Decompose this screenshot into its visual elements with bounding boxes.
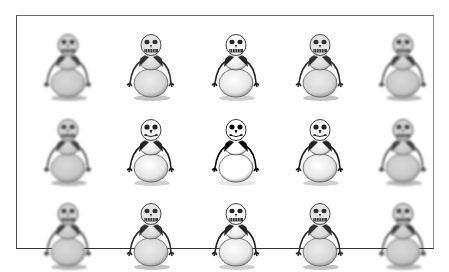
snowman-icon: [290, 27, 350, 103]
snowman-icon: [290, 112, 350, 188]
snowman-icon: [206, 196, 266, 272]
snowman-cell-r2-c0[interactable]: [38, 196, 98, 272]
snowman-cell-r2-c1[interactable]: [121, 196, 181, 272]
snowman-icon: [121, 196, 181, 272]
snowman-icon: [206, 112, 266, 188]
snowman-cell-r0-c4[interactable]: [373, 27, 433, 103]
snowman-icon: [38, 27, 98, 103]
snowman-icon: [373, 112, 433, 188]
snowman-icon: [290, 196, 350, 272]
snowman-icon: [38, 112, 98, 188]
snowman-cell-r1-c2[interactable]: [206, 112, 266, 188]
snowman-cell-r2-c4[interactable]: [373, 196, 433, 272]
snowman-icon: [121, 27, 181, 103]
snowman-cell-r0-c2[interactable]: [206, 27, 266, 103]
snowman-cell-r1-c0[interactable]: [38, 112, 98, 188]
snowman-cell-r2-c2[interactable]: [206, 196, 266, 272]
snowman-icon: [373, 196, 433, 272]
snowman-icon: [373, 27, 433, 103]
snowman-icon: [38, 196, 98, 272]
snowman-cell-r2-c3[interactable]: [290, 196, 350, 272]
snowman-cell-r1-c1[interactable]: [121, 112, 181, 188]
snowman-icon: [206, 27, 266, 103]
snowman-cell-r1-c3[interactable]: [290, 112, 350, 188]
snowman-cell-r0-c1[interactable]: [121, 27, 181, 103]
snowman-cell-r1-c4[interactable]: [373, 112, 433, 188]
snowman-cell-r0-c3[interactable]: [290, 27, 350, 103]
snowman-cell-r0-c0[interactable]: [38, 27, 98, 103]
snowman-icon: [121, 112, 181, 188]
